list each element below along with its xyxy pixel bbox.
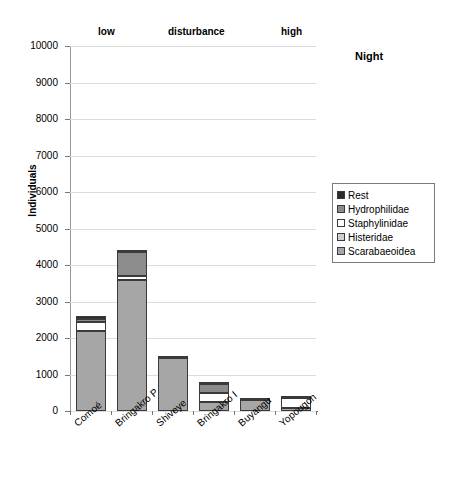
bar-bringakro-i <box>199 46 229 411</box>
legend-item: Scarabaeoidea <box>337 244 431 258</box>
legend-item: Histeridae <box>337 230 431 244</box>
legend-label: Scarabaeoidea <box>348 246 415 257</box>
legend-label: Rest <box>348 190 369 201</box>
bar-comoé <box>76 46 106 411</box>
bar-segment-staphylinidae <box>76 322 106 331</box>
legend-label: Hydrophilidae <box>348 204 409 215</box>
x-tick-mark <box>193 411 194 415</box>
x-tick-mark <box>234 411 235 415</box>
legend-item: Rest <box>337 188 431 202</box>
legend-label: Staphylinidae <box>348 218 408 229</box>
bar-shiveye <box>158 46 188 411</box>
chart-figure: low disturbance high Night Individuals 0… <box>0 0 457 496</box>
x-tick-mark <box>70 411 71 415</box>
group-label-high: high <box>281 26 302 37</box>
bar-segment-rest <box>199 382 229 384</box>
group-label-low: low <box>98 26 115 37</box>
bar-segment-scarabaeoidea <box>117 280 147 411</box>
bar-bringakro-p <box>117 46 147 411</box>
bar-segment-hydrophilidae <box>76 319 106 321</box>
y-tick-label: 5000 <box>12 223 58 234</box>
bar-segment-rest <box>117 250 147 252</box>
bar-yopougon <box>281 46 311 411</box>
chart-legend: RestHydrophilidaeStaphylinidaeHisteridae… <box>332 183 435 263</box>
legend-swatch-icon <box>337 191 345 199</box>
legend-swatch-icon <box>337 247 345 255</box>
legend-label: Histeridae <box>348 232 393 243</box>
x-tick-mark <box>275 411 276 415</box>
y-tick-label: 0 <box>12 405 58 416</box>
legend-swatch-icon <box>337 233 345 241</box>
bar-segment-staphylinidae <box>117 276 147 280</box>
y-tick-label: 4000 <box>12 259 58 270</box>
x-tick-mark <box>316 411 317 415</box>
y-tick-label: 8000 <box>12 113 58 124</box>
y-tick-label: 9000 <box>12 77 58 88</box>
legend-item: Staphylinidae <box>337 216 431 230</box>
bar-buyangu <box>240 46 270 411</box>
y-tick-label: 10000 <box>12 40 58 51</box>
y-tick-label: 1000 <box>12 369 58 380</box>
legend-swatch-icon <box>337 219 345 227</box>
legend-swatch-icon <box>337 205 345 213</box>
chart-annotation-night: Night <box>355 50 383 62</box>
bar-segment-scarabaeoidea <box>76 331 106 411</box>
y-tick-label: 3000 <box>12 296 58 307</box>
x-tick-mark <box>152 411 153 415</box>
bar-segment-rest <box>76 316 106 319</box>
plot-area <box>70 46 316 411</box>
x-tick-mark <box>111 411 112 415</box>
y-tick-label: 2000 <box>12 332 58 343</box>
bar-segment-rest <box>158 356 188 358</box>
bar-segment-hydrophilidae <box>199 384 229 393</box>
y-tick-label: 7000 <box>12 150 58 161</box>
group-label-disturbance: disturbance <box>168 26 225 37</box>
y-tick-label: 6000 <box>12 186 58 197</box>
bar-segment-hydrophilidae <box>117 252 147 276</box>
legend-item: Hydrophilidae <box>337 202 431 216</box>
